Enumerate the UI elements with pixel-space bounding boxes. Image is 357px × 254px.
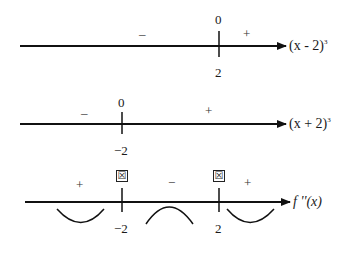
sign-positive-row2: +	[205, 104, 212, 117]
concave-up-curve-left	[57, 209, 104, 223]
zero-value-row2: 0	[118, 96, 125, 109]
critical-point-row2: −2	[114, 144, 128, 157]
exponent: 3	[324, 38, 328, 46]
sign-positive-right-row3: +	[244, 176, 251, 189]
expression-label-row1: (x - 2)3	[289, 39, 328, 53]
exponent: 3	[327, 116, 331, 124]
critical-point-2-row3: 2	[215, 222, 222, 235]
expression-base: (x + 2)	[289, 116, 327, 131]
sign-negative-row2: –	[81, 106, 88, 119]
expression-base: (x - 2)	[289, 38, 324, 53]
undefined-marker-neg2: ☒	[116, 170, 128, 182]
sign-positive-left-row3: +	[76, 178, 83, 191]
sign-positive-row1: +	[243, 27, 250, 40]
sign-negative-middle-row3: −	[168, 176, 175, 189]
zero-value-row1: 0	[215, 13, 222, 26]
critical-point-neg2-row3: −2	[114, 222, 128, 235]
undefined-marker-2: ☒	[213, 170, 225, 182]
concave-down-curve-middle	[146, 207, 193, 224]
expression-label-row3: f ''(x)	[293, 195, 322, 209]
concave-up-curve-right	[227, 209, 274, 223]
sign-negative-row1: –	[139, 27, 146, 40]
expression-label-row2: (x + 2)3	[289, 117, 331, 131]
critical-point-row1: 2	[215, 66, 222, 79]
